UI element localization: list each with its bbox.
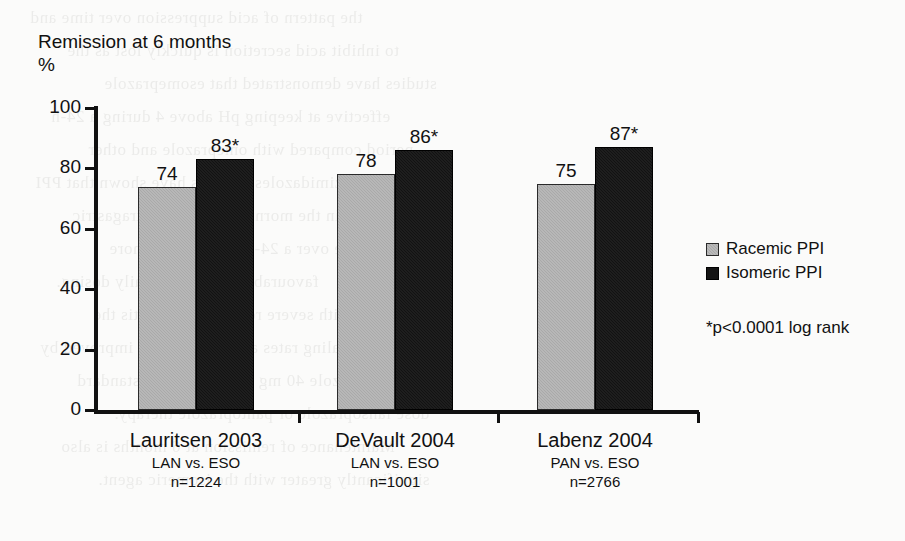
legend-item-isomeric-ppi: Isomeric PPI (706, 262, 824, 284)
bar-racemic-ppi: 78 (337, 174, 395, 410)
category-sample-size: n=1224 (130, 472, 262, 491)
y-axis-tick-mark (85, 288, 96, 291)
y-axis-tick-mark (85, 107, 96, 110)
bar-value-label: 83* (211, 135, 240, 156)
page-title: Remission at 6 months (38, 30, 231, 53)
bar-isomeric-ppi: 86* (395, 150, 453, 410)
significance-footnote: *p<0.0001 log rank (706, 318, 849, 338)
bar-racemic-ppi: 74 (138, 187, 196, 410)
chart-legend: Racemic PPIIsomeric PPI (706, 238, 824, 286)
category-name: DeVault 2004 (335, 428, 455, 453)
legend-item-label: Racemic PPI (726, 239, 824, 259)
bar-value-label: 86* (410, 126, 439, 147)
category-name: Labenz 2004 (537, 428, 653, 453)
bar-value-label: 75 (555, 160, 576, 181)
black-square-icon (706, 267, 719, 280)
category-sample-size: n=2766 (537, 472, 653, 491)
plot-area: 0204060801007483*Lauritsen 2003LAN vs. E… (96, 108, 697, 410)
y-axis-line (94, 106, 98, 412)
category-name: Lauritsen 2003 (130, 428, 262, 453)
category-comparison: LAN vs. ESO (335, 453, 455, 472)
bar-value-label: 87* (610, 123, 639, 144)
y-axis-tick-mark (85, 167, 96, 170)
bar-chart: Remission at 6 months % 0204060801007483… (0, 0, 905, 541)
bar-value-label: 78 (355, 150, 376, 171)
bar-isomeric-ppi: 83* (196, 159, 254, 410)
x-axis-category-2: DeVault 2004LAN vs. ESOn=1001 (335, 428, 455, 491)
category-comparison: LAN vs. ESO (130, 453, 262, 472)
legend-item-label: Isomeric PPI (726, 263, 822, 283)
bar-isomeric-ppi: 87* (595, 147, 653, 410)
category-comparison: PAN vs. ESO (537, 453, 653, 472)
y-axis-tick-mark (85, 228, 96, 231)
y-axis-tick-mark (85, 349, 96, 352)
category-sample-size: n=1001 (335, 472, 455, 491)
x-axis-tick-mark (298, 412, 301, 423)
legend-item-racemic-ppi: Racemic PPI (706, 238, 824, 260)
bar-value-label: 74 (156, 163, 177, 184)
x-axis-category-1: Lauritsen 2003LAN vs. ESOn=1224 (130, 428, 262, 491)
y-axis-tick-label: 0 (25, 398, 81, 420)
x-axis-tick-mark (497, 412, 500, 423)
y-axis-tick-label: 100 (25, 96, 81, 118)
y-axis-unit-label: % (38, 53, 231, 76)
y-axis-tick-label: 80 (25, 156, 81, 178)
y-axis-tick-mark (85, 409, 96, 412)
x-axis-line (94, 410, 699, 414)
y-axis-tick-label: 20 (25, 338, 81, 360)
bar-racemic-ppi: 75 (537, 184, 595, 411)
y-axis-tick-label: 40 (25, 277, 81, 299)
chart-title-block: Remission at 6 months % (38, 30, 231, 76)
gray-square-icon (706, 243, 719, 256)
y-axis-tick-label: 60 (25, 217, 81, 239)
x-axis-category-3: Labenz 2004PAN vs. ESOn=2766 (537, 428, 653, 491)
x-axis-end-tick-mark (697, 412, 700, 423)
